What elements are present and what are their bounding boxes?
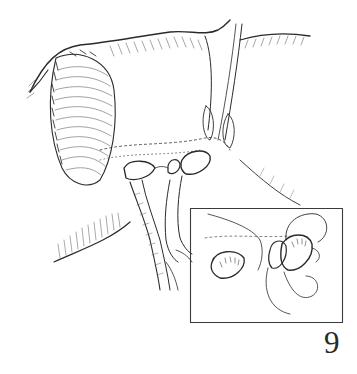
anatomical-illustration: 9 — [0, 0, 357, 374]
figure-number: 9 — [324, 326, 340, 360]
lower-flap — [54, 222, 130, 262]
suture-loop-upper — [286, 214, 327, 242]
illustration-drawing — [0, 0, 357, 374]
inset-frame — [191, 209, 343, 323]
inset-left-opening — [211, 252, 244, 279]
inset-right-opening — [281, 235, 312, 270]
left-opening — [124, 161, 155, 179]
suture-thread — [266, 268, 290, 314]
left-duct — [130, 182, 160, 290]
right-opening — [181, 151, 210, 174]
suture-loop-lower — [284, 272, 318, 298]
small-opening — [168, 160, 180, 174]
